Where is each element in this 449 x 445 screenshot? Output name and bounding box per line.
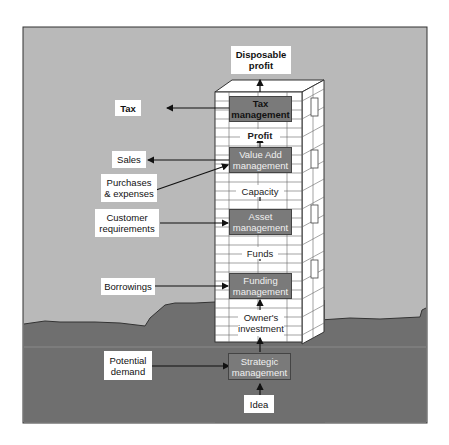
capacity-flow-label: Capacity (236, 185, 284, 197)
idea-label: Idea (244, 395, 274, 413)
purchases-expenses-label: Purchases & expenses (101, 174, 157, 202)
strategic-management-box: Strategic management (228, 353, 291, 380)
diagram-graphics (0, 0, 449, 445)
funding-management-box: Funding management (229, 273, 292, 299)
business-tower-diagram: Disposable profit Tax management Value A… (0, 0, 449, 445)
tax-management-box: Tax management (229, 96, 292, 122)
borrowings-label: Borrowings (101, 278, 155, 295)
owners-investment-flow-label: Owner's investment (238, 310, 284, 336)
potential-demand-label: Potential demand (104, 351, 152, 380)
tax-label: Tax (115, 100, 141, 116)
customer-requirements-label: Customer requirements (95, 209, 159, 237)
asset-management-box: Asset management (229, 209, 292, 235)
disposable-profit-label: Disposable profit (231, 46, 291, 74)
funds-flow-label: Funds (242, 247, 278, 259)
sales-label: Sales (112, 151, 146, 168)
profit-flow-label: Profit (240, 129, 280, 141)
value-add-management-box: Value Add management (229, 147, 292, 173)
